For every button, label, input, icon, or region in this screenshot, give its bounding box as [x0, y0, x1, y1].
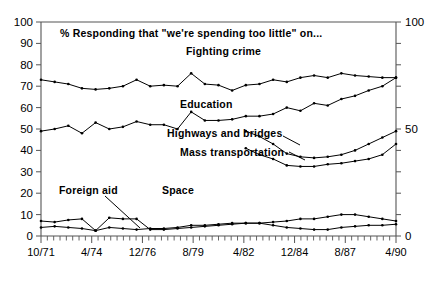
data-point	[299, 227, 302, 230]
data-point	[135, 120, 138, 123]
data-point	[67, 219, 70, 222]
y-tick-label: 60	[20, 102, 33, 114]
x-tick-label: 12/76	[129, 246, 157, 258]
data-point	[326, 228, 329, 231]
data-point	[272, 78, 275, 81]
data-point	[217, 224, 220, 227]
data-point	[272, 113, 275, 116]
data-point	[354, 225, 357, 228]
series-label-foreign-aid: Foreign aid	[59, 184, 118, 196]
data-point	[53, 221, 56, 224]
data-point	[340, 213, 343, 216]
x-tick-label: 4/90	[385, 246, 406, 258]
series-label-space: Space	[162, 184, 194, 196]
data-point	[313, 165, 316, 168]
data-point	[354, 213, 357, 216]
data-point	[340, 162, 343, 165]
data-point	[285, 152, 288, 155]
data-point	[245, 222, 248, 225]
data-point	[53, 128, 56, 131]
data-point	[217, 84, 220, 87]
data-point	[299, 76, 302, 79]
data-point	[204, 119, 207, 122]
data-point	[53, 225, 56, 228]
data-point	[94, 88, 97, 91]
data-point	[81, 218, 84, 221]
data-point	[190, 226, 193, 229]
x-tick-label: 4/74	[81, 246, 102, 258]
x-tick-label: 12/84	[281, 246, 309, 258]
data-point	[395, 220, 398, 223]
data-point	[272, 221, 275, 224]
data-point	[381, 76, 384, 79]
data-point	[285, 226, 288, 229]
data-point	[367, 158, 370, 161]
data-point	[81, 227, 84, 230]
data-point	[149, 85, 152, 88]
data-point	[204, 83, 207, 86]
data-point	[272, 158, 275, 161]
data-point	[340, 153, 343, 156]
data-point	[272, 143, 275, 146]
data-point	[258, 83, 261, 86]
data-point	[367, 215, 370, 218]
y-tick-label: 10	[20, 209, 33, 221]
data-point	[40, 226, 43, 229]
data-point	[108, 128, 111, 131]
data-point	[340, 226, 343, 229]
data-point	[367, 143, 370, 146]
data-point	[395, 130, 398, 133]
series-label-education: Education	[180, 98, 233, 110]
data-point	[381, 85, 384, 88]
data-point	[81, 132, 84, 135]
data-point	[94, 229, 97, 232]
data-point	[122, 227, 125, 230]
data-point	[313, 74, 316, 77]
data-point	[340, 98, 343, 101]
x-tick-label: 8/87	[335, 246, 356, 258]
data-point	[53, 81, 56, 84]
y-tick-label: 90	[20, 37, 33, 49]
data-point	[163, 228, 166, 231]
data-point	[326, 76, 329, 79]
data-point	[326, 156, 329, 159]
data-point	[231, 118, 234, 121]
data-point	[67, 124, 70, 127]
data-point	[204, 225, 207, 228]
chart-background	[0, 0, 442, 283]
data-point	[231, 89, 234, 92]
data-point	[135, 228, 138, 231]
y-tick-label-right: 0	[405, 230, 411, 242]
data-point	[108, 87, 111, 90]
data-point	[81, 87, 84, 90]
x-tick-label: 8/79	[182, 246, 203, 258]
data-point	[122, 126, 125, 129]
chart-title: % Responding that "we're spending too li…	[60, 27, 322, 39]
data-point	[285, 81, 288, 84]
y-tick-label: 50	[20, 123, 33, 135]
data-point	[313, 102, 316, 105]
data-point	[395, 223, 398, 226]
data-point	[258, 222, 261, 225]
data-point	[40, 130, 43, 133]
data-point	[122, 218, 125, 221]
y-tick-label: 0	[27, 230, 33, 242]
survey-spending-line-chart: 100 90 80 70 60 50 40 30 20 10 0 100 50 …	[0, 0, 442, 283]
y-tick-label: 80	[20, 59, 33, 71]
data-point	[326, 215, 329, 218]
y-tick-label: 100	[14, 16, 33, 28]
data-point	[149, 123, 152, 126]
data-point	[299, 110, 302, 113]
data-point	[313, 157, 316, 160]
y-tick-label-right: 100	[405, 16, 424, 28]
data-point	[190, 72, 193, 75]
data-point	[354, 149, 357, 152]
data-point	[40, 220, 43, 223]
data-point	[395, 143, 398, 146]
data-point	[245, 115, 248, 118]
data-point	[381, 224, 384, 227]
data-point	[367, 75, 370, 78]
y-tick-label: 30	[20, 166, 33, 178]
data-point	[285, 164, 288, 167]
data-point	[299, 218, 302, 221]
